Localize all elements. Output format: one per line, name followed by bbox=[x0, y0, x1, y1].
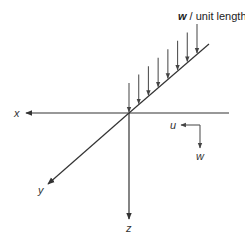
beam-line bbox=[129, 44, 209, 113]
y-axis bbox=[48, 113, 129, 184]
beam-load-diagram: x z y w / unit length u w bbox=[0, 0, 245, 242]
y-axis-label: y bbox=[37, 184, 45, 196]
w-label: w bbox=[196, 150, 205, 162]
u-label: u bbox=[170, 119, 176, 131]
load-label: w / unit length bbox=[178, 10, 245, 22]
load-unit-text: / unit length bbox=[187, 10, 245, 22]
z-axis-label: z bbox=[125, 222, 132, 234]
distributed-load-arrows bbox=[129, 24, 197, 112]
x-axis-label: x bbox=[13, 107, 20, 119]
